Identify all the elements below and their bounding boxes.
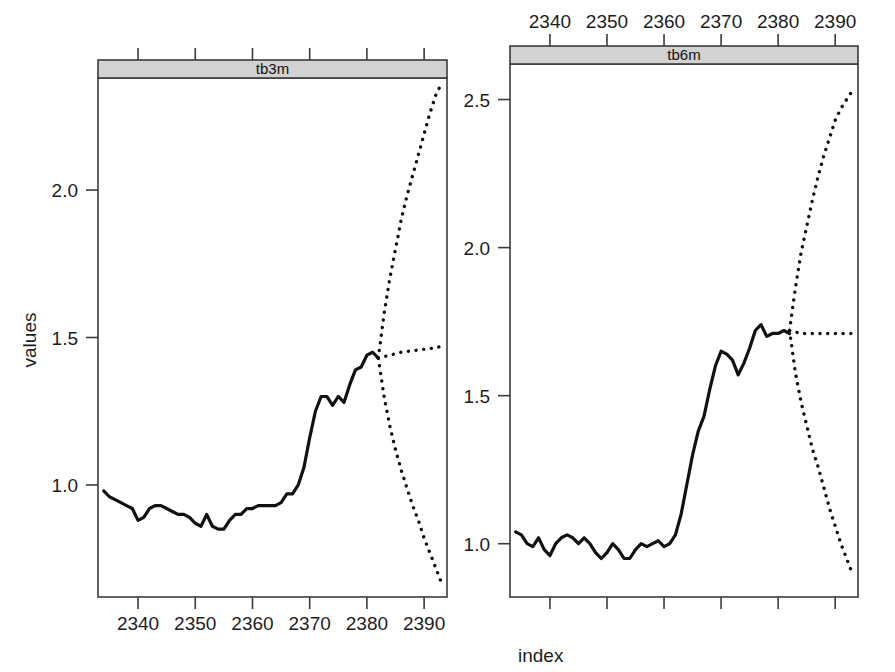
series-observed: [516, 325, 790, 559]
x-tick-label: 2350: [586, 11, 628, 32]
series-forecast-mean: [378, 346, 441, 358]
y-axis-title: values: [19, 313, 40, 368]
y-tick-label: 2.5: [464, 90, 490, 111]
series-forecast-upper: [378, 84, 441, 358]
panel-tb6m: tb6m2340235023602370238023901.01.52.02.5: [464, 11, 858, 609]
x-tick-label: 2390: [814, 11, 856, 32]
x-tick-label: 2380: [346, 613, 388, 634]
x-tick-label: 2370: [289, 613, 331, 634]
y-tick-label: 1.0: [464, 534, 490, 555]
x-tick-label: 2380: [757, 11, 799, 32]
panel-series-group: [516, 91, 853, 574]
panel-frame: [98, 78, 447, 597]
y-tick-label: 2.0: [464, 238, 490, 259]
x-tick-label: 2350: [174, 613, 216, 634]
x-tick-label: 2340: [529, 11, 571, 32]
y-tick-label: 2.0: [52, 180, 78, 201]
series-observed: [104, 352, 379, 529]
y-tick-label: 1.0: [52, 475, 78, 496]
panel-tb3m: tb3m2340235023602370238023901.01.52.0: [52, 48, 447, 634]
panel-series-group: [104, 84, 442, 582]
y-tick-label: 1.5: [464, 386, 490, 407]
panel-frame: [510, 64, 858, 597]
x-axis-title: index: [518, 645, 564, 666]
series-forecast-lower: [790, 331, 853, 574]
x-tick-label: 2370: [700, 11, 742, 32]
panel-strip-label: tb6m: [667, 46, 700, 63]
series-forecast-mean: [790, 331, 853, 334]
series-forecast-lower: [378, 358, 441, 582]
x-tick-label: 2340: [117, 613, 159, 634]
x-tick-label: 2390: [403, 613, 445, 634]
x-tick-label: 2360: [231, 613, 273, 634]
series-forecast-upper: [790, 91, 853, 331]
y-tick-label: 1.5: [52, 328, 78, 349]
plot-canvas: tb3m2340235023602370238023901.01.52.0tb6…: [0, 0, 895, 672]
x-tick-label: 2360: [643, 11, 685, 32]
panel-strip-label: tb3m: [256, 60, 289, 77]
trellis-forecast-figure: tb3m2340235023602370238023901.01.52.0tb6…: [0, 0, 895, 672]
